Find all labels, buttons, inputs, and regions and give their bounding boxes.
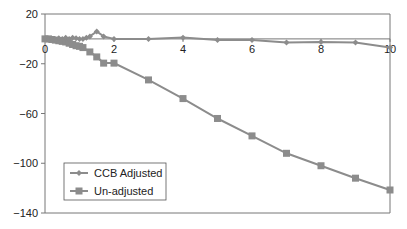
- legend-label: CCB Adjusted: [94, 167, 162, 179]
- x-tick-label: 0: [42, 43, 48, 55]
- diamond-marker-icon: [215, 37, 221, 43]
- square-marker-icon: [249, 132, 256, 139]
- y-tick-label: −140: [13, 207, 38, 219]
- square-marker-icon: [387, 186, 394, 193]
- y-tick-label: 20: [26, 8, 38, 20]
- square-marker-icon: [352, 175, 359, 182]
- square-marker-icon: [79, 44, 86, 51]
- diamond-marker-icon: [284, 40, 290, 46]
- legend: CCB Adjusted Un-adjusted: [64, 163, 166, 200]
- x-tick-label: 4: [180, 43, 186, 55]
- diamond-marker-icon: [146, 36, 152, 42]
- square-marker-icon: [86, 48, 93, 55]
- y-tick-label: −60: [19, 108, 38, 120]
- y-axis-ticks: 20−20−60−100−140: [13, 8, 45, 219]
- series-ccb-adjusted: [42, 28, 393, 50]
- square-marker-icon: [180, 95, 187, 102]
- legend-label: Un-adjusted: [94, 185, 153, 197]
- square-marker-icon: [93, 53, 100, 60]
- square-marker-icon: [100, 60, 107, 67]
- diamond-marker-icon: [353, 40, 359, 46]
- diamond-marker-icon: [180, 35, 186, 41]
- square-marker-icon: [283, 150, 290, 157]
- line-chart: 20−20−60−100−140 0246810 CCB Adjusted Un…: [0, 0, 407, 229]
- x-tick-label: 6: [249, 43, 255, 55]
- square-marker-icon: [145, 76, 152, 83]
- x-tick-label: 2: [111, 43, 117, 55]
- y-tick-label: −100: [13, 157, 38, 169]
- square-marker-icon: [318, 162, 325, 169]
- diamond-marker-icon: [111, 36, 117, 42]
- square-marker-icon: [111, 60, 118, 67]
- y-tick-label: −20: [19, 58, 38, 70]
- square-marker-icon: [214, 115, 221, 122]
- square-marker-icon: [76, 188, 83, 195]
